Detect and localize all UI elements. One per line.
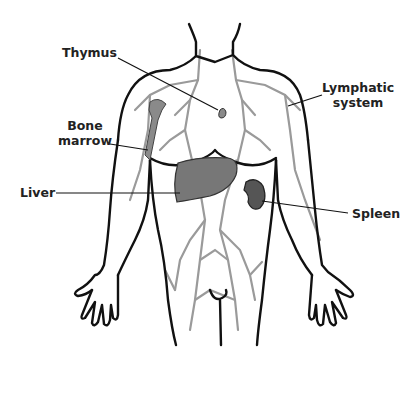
label-bone-marrow: Bone marrow	[58, 118, 112, 148]
label-bone-marrow-line1: Bone	[58, 118, 112, 133]
spleen-shape	[244, 180, 265, 209]
label-thymus: Thymus	[62, 45, 117, 60]
thymus-shape	[219, 108, 226, 118]
lymph-vessels	[130, 50, 320, 330]
label-lymphatic-line2: system	[322, 95, 394, 110]
lymphatic-diagram: Thymus Bone marrow Liver Lymphatic syste…	[0, 0, 417, 408]
label-spleen: Spleen	[352, 206, 400, 221]
label-liver: Liver	[20, 185, 55, 200]
label-lymphatic-system: Lymphatic system	[322, 80, 394, 110]
body-illustration	[0, 0, 417, 408]
label-bone-marrow-line2: marrow	[58, 133, 112, 148]
label-lymphatic-line1: Lymphatic	[322, 80, 394, 95]
